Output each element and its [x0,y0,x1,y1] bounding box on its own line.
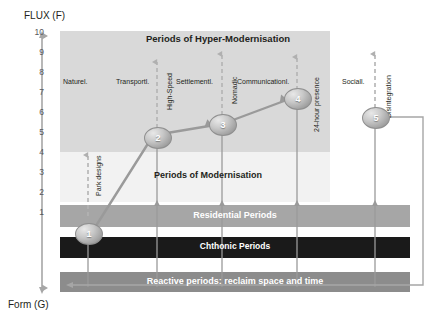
era-label-transportl: Transportl. [116,78,149,85]
band-label-modernisation: Periods of Modernisation [0,170,416,180]
axis-label-flux: FLUX (F) [24,10,65,21]
band-label-reactive: Reactive periods: reclaim space and time [60,276,410,286]
era-label-sociall: Sociall. [342,78,365,85]
band-label-chthonic: Chthonic Periods [60,241,410,251]
diagram-canvas: FLUX (F) Form (G) 10 9 8 7 6 5 4 3 2 1 P… [0,0,436,323]
node-2[interactable]: 2 [144,127,172,149]
y-tick-5: 5 [30,127,44,137]
era-label-naturel: Naturel. [63,78,88,85]
era-label-park-designs: Park designs [95,156,102,196]
y-tick-4: 4 [30,147,44,157]
diagram-vectors [0,0,436,323]
y-tick-6: 6 [30,107,44,117]
node-5[interactable]: 5 [362,107,390,129]
node-3[interactable]: 3 [209,114,237,136]
y-tick-1: 1 [30,207,44,217]
axis-label-form: Form (G) [8,299,49,310]
band-label-residential: Residential Periods [60,210,410,220]
era-label-24-hour-presence: 24-hour presence [313,77,320,132]
y-tick-2: 2 [30,187,44,197]
era-label-nomadic: Nomadic [231,76,238,104]
feedback-loop [66,117,423,288]
era-label-settlementl: Settlementl. [176,78,213,85]
node-1[interactable]: 1 [75,223,103,245]
node-4[interactable]: 4 [284,88,312,110]
stem-arrowheads [154,200,378,206]
y-tick-9: 9 [30,47,44,57]
y-tick-7: 7 [30,87,44,97]
band-label-hyper-modernisation: Periods of Hyper-Modernisation [0,33,436,44]
y-tick-8: 8 [30,67,44,77]
era-label-high-speed: High-Speed [166,73,173,110]
era-label-communicationl: Communicationl. [237,78,289,85]
